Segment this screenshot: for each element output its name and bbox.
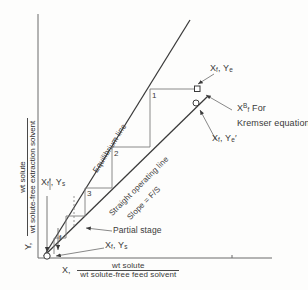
label-kremser-equation: Kremser equation bbox=[237, 119, 308, 128]
marker-origin-point bbox=[44, 253, 50, 259]
stage-number-1: 1 bbox=[152, 92, 157, 100]
marker-kremser-point bbox=[193, 100, 199, 106]
leader-kremser bbox=[206, 95, 232, 110]
leader-partial-stage bbox=[86, 228, 112, 231]
x-axis-symbol: X, bbox=[62, 266, 73, 275]
marker-top-point bbox=[195, 86, 201, 92]
stage-number-2: 2 bbox=[114, 150, 119, 158]
y-axis-denominator: wt solute-free extraction solvent bbox=[27, 118, 37, 237]
label-left-point: Xf′, Ys bbox=[41, 178, 65, 188]
stage-number-f: f bbox=[59, 234, 61, 242]
y-axis-numerator: wt solute bbox=[18, 118, 27, 237]
x-axis-denominator: wt solute-free feed solvent bbox=[77, 270, 179, 279]
label-bottom-point-text: Xf, Ys bbox=[105, 240, 128, 250]
stage-number-3: 3 bbox=[87, 190, 92, 198]
label-kremser-symbol: XBf bbox=[237, 103, 252, 113]
partial-stage-label: Partial stage bbox=[113, 226, 162, 235]
x-axis-numerator: wt solute bbox=[77, 262, 179, 270]
figure-canvas: Y, wt solute wt solute-free extraction s… bbox=[0, 0, 308, 290]
leader-bottom-point bbox=[56, 248, 104, 256]
label-bottom-point: Xf, Ys bbox=[105, 241, 128, 251]
label-kremser-point: XBf For bbox=[237, 103, 266, 114]
label-top-point-text: Xf, Ye bbox=[210, 63, 233, 73]
x-axis-label: X, wt solute wt solute-free feed solvent bbox=[62, 262, 179, 280]
leader-top-point bbox=[198, 74, 214, 84]
label-lower-point: Xf, Ye′ bbox=[212, 134, 237, 144]
plot-svg bbox=[0, 0, 308, 290]
label-lower-point-text: Xf, Ye′ bbox=[212, 133, 237, 143]
label-top-point: Xf, Ye bbox=[210, 64, 233, 74]
y-axis-label: Y, wt solute wt solute-free extraction s… bbox=[18, 118, 37, 250]
label-left-point-text: Xf′, Ys bbox=[41, 177, 65, 187]
y-axis-symbol: Y, bbox=[23, 241, 33, 250]
label-kremser-tail: For bbox=[252, 103, 266, 113]
